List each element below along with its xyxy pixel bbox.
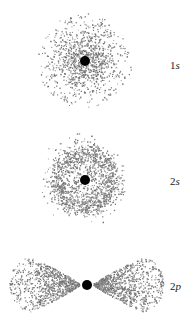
orbital-label-2p: 2p [170,281,181,292]
label-2p-symbol: p [176,280,182,292]
nucleus-2p [82,280,92,290]
orbital-label-2s: 2s [170,176,180,187]
label-1s-symbol: s [176,59,180,71]
orbital-label-1s: 1s [170,60,180,71]
orbital-diagram [0,0,194,321]
label-2s-symbol: s [176,175,180,187]
nucleus-1s [80,56,90,66]
nucleus-2s [80,175,90,185]
